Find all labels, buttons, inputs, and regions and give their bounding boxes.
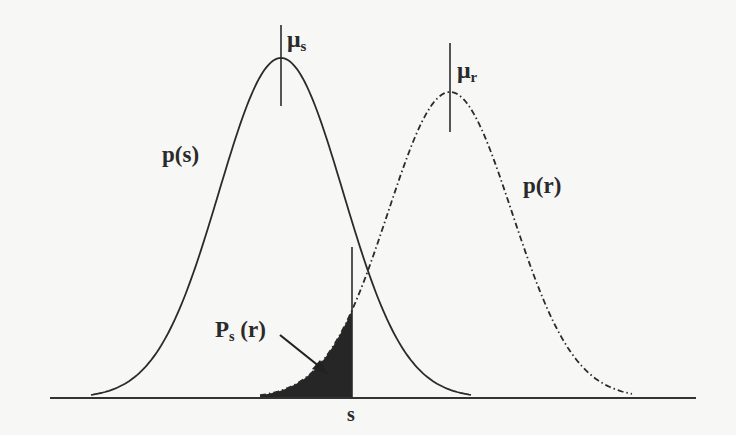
s-marker-label: s [347, 404, 355, 424]
overlap-probability-label: Ps (r) [215, 318, 266, 343]
stress-strength-diagram: μs μr p(s) p(r) Ps (r) s [0, 0, 736, 435]
shaded-probability-area [260, 310, 352, 398]
p-s-label: p(s) [162, 143, 199, 166]
pointer-arrow-shaft [280, 335, 320, 367]
curve-p-r [260, 92, 632, 395]
curve-p-s [91, 58, 471, 395]
distribution-plot [0, 0, 736, 435]
p-r-label: p(r) [523, 174, 561, 197]
mu-s-label: μs [287, 27, 306, 54]
mu-r-label: μr [457, 58, 477, 85]
